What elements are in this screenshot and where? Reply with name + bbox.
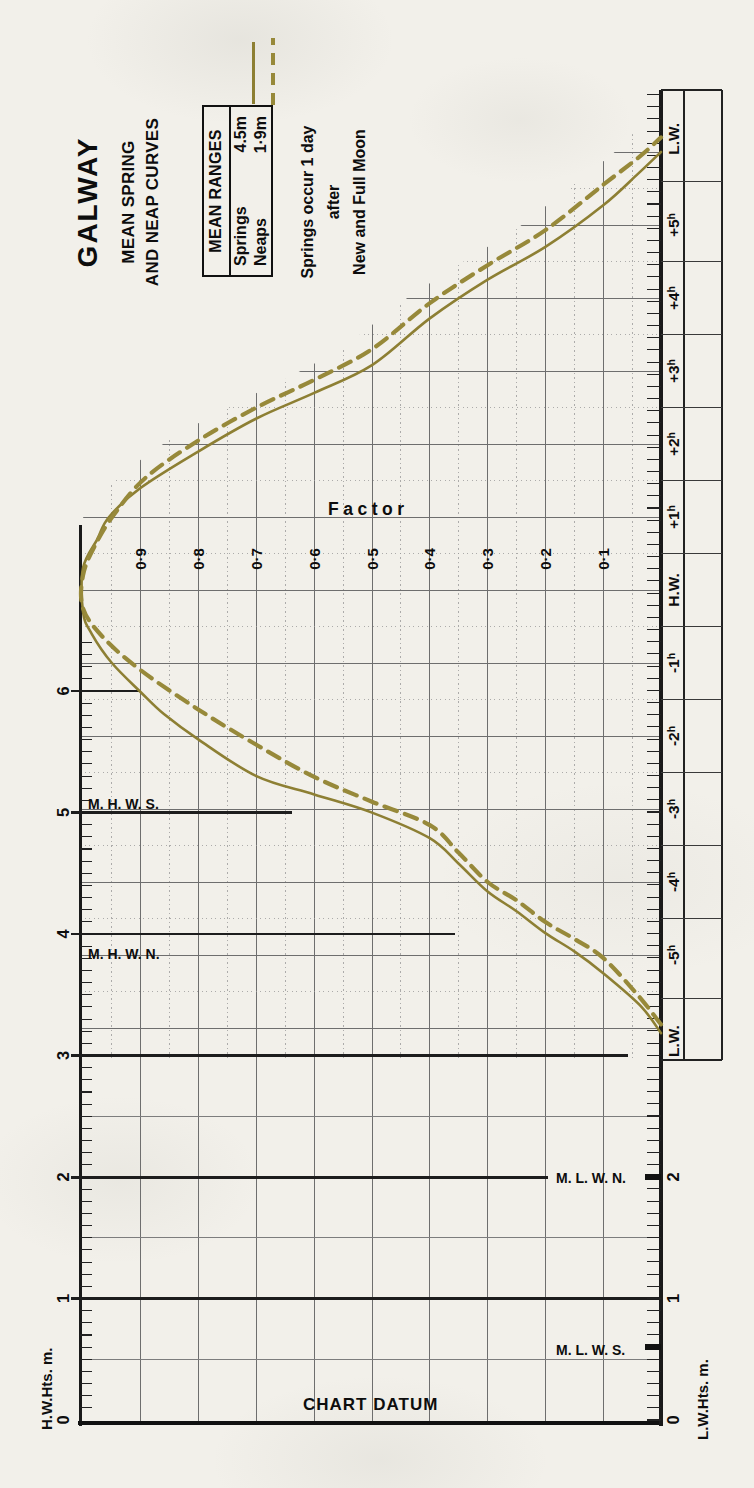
legend-row-springs: Springs 4.5m [231, 107, 251, 275]
factor-label-0p2: 0·2 [537, 548, 554, 570]
note-line-3: New and Full Moon [347, 64, 373, 340]
hw-height-number-6: 6 [54, 686, 72, 695]
mlwn-mark [645, 1174, 661, 1180]
time-label-+3h: +3h [665, 359, 683, 383]
mean-ranges-legend: MEAN RANGES Springs 4.5m Neaps 1·9m [202, 105, 273, 277]
lw-heights-axis-label: L.W.Hts. m. [694, 1359, 711, 1440]
note-line-2: after [321, 64, 347, 340]
time-label--2h: -2h [665, 726, 683, 746]
spring-curve-sample-line [252, 42, 255, 104]
lw-height-number-1: 1 [664, 1294, 682, 1303]
time-label-+5h: +5h [665, 213, 683, 237]
chart-subtitle: MEAN SPRING AND NEAP CURVES [117, 64, 165, 340]
factor-label-0p7: 0·7 [248, 548, 265, 570]
subtitle-line-1: MEAN SPRING [117, 64, 141, 340]
neaps-label: Neaps [252, 218, 270, 266]
lw-height-number-2: 2 [664, 1172, 682, 1181]
time-label-+4h: +4h [665, 286, 683, 310]
time-label-LW: L.W. [665, 1025, 682, 1057]
springs-note: Springs occur 1 day after New and Full M… [295, 64, 373, 340]
chart-datum-label: CHART DATUM [303, 1395, 438, 1414]
note-line-1: Springs occur 1 day [295, 64, 321, 340]
page-title: GALWAY [72, 64, 104, 340]
factor-label-0p3: 0·3 [479, 548, 496, 570]
legend-title: MEAN RANGES [204, 107, 231, 275]
factor-label-0p8: 0·8 [190, 548, 207, 570]
factor-label-0p4: 0·4 [421, 548, 438, 570]
time-label--4h: -4h [665, 872, 683, 892]
factor-label-0p9: 0·9 [132, 548, 149, 570]
landscape-chart-canvas: L.W.-5h-4h-3h-2h-1hH.W.+1h+2h+3h+4h+5hL.… [0, 0, 754, 1488]
time-label-HW: H.W. [665, 573, 682, 607]
time-label-LW: L.W. [665, 123, 682, 155]
factor-label-0p1: 0·1 [595, 548, 612, 570]
hw-height-number-0: 0 [54, 1415, 72, 1424]
hw-heights-axis-label: H.W.Hts. m. [38, 1347, 55, 1430]
mlwn-label: M. L. W. N. [556, 1170, 626, 1186]
time-label--5h: -5h [665, 945, 683, 965]
mlws-label: M. L. W. S. [556, 1342, 625, 1358]
factor-label-0p6: 0·6 [306, 548, 323, 570]
lw-height-number-0: 0 [664, 1415, 682, 1424]
time-label--3h: -3h [665, 799, 683, 819]
hw-height-number-5: 5 [54, 808, 72, 817]
springs-label: Springs [232, 206, 250, 266]
title-block: GALWAY MEAN SPRING AND NEAP CURVES [72, 64, 165, 340]
time-label-+2h: +2h [665, 432, 683, 456]
mhwn-label: M. H. W. N. [88, 946, 160, 962]
hw-height-number-2: 2 [54, 1172, 72, 1181]
time-label-+1h: +1h [665, 505, 683, 529]
mlws-mark [645, 1344, 661, 1350]
factor-label-0p5: 0·5 [364, 548, 381, 570]
scanned-tidal-curve-page: L.W.-5h-4h-3h-2h-1hH.W.+1h+2h+3h+4h+5hL.… [0, 0, 754, 1488]
neaps-range-value: 1·9m [252, 116, 270, 153]
legend-row-neaps: Neaps 1·9m [251, 107, 271, 275]
time-label--1h: -1h [665, 653, 683, 673]
mhws-label: M. H. W. S. [88, 796, 159, 812]
subtitle-line-2: AND NEAP CURVES [141, 64, 165, 340]
hw-height-number-3: 3 [54, 1051, 72, 1060]
hw-height-number-4: 4 [54, 929, 72, 939]
neap-curve-sample-line [271, 38, 275, 105]
springs-range-value: 4.5m [232, 116, 250, 152]
heights-area-grid [80, 1058, 660, 1422]
factor-axis-title: Factor [328, 499, 408, 519]
hw-height-number-1: 1 [54, 1294, 72, 1303]
